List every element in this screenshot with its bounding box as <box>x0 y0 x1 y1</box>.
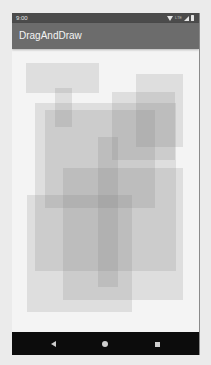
phone-screen: 9:00 LTE DragAndDraw <box>12 13 200 355</box>
lte-icon: LTE <box>175 15 182 21</box>
recents-icon <box>155 342 160 347</box>
wifi-icon <box>167 16 173 21</box>
drawing-canvas[interactable] <box>12 49 199 332</box>
navigation-bar <box>12 332 199 355</box>
back-icon <box>51 341 56 347</box>
page-background: 9:00 LTE DragAndDraw <box>0 0 211 365</box>
recents-button[interactable] <box>151 338 163 350</box>
signal-icon <box>184 16 189 21</box>
status-bar: 9:00 LTE <box>12 13 199 23</box>
app-bar: DragAndDraw <box>12 23 199 49</box>
app-title: DragAndDraw <box>19 30 82 42</box>
back-button[interactable] <box>47 338 59 350</box>
drawn-box <box>27 195 132 312</box>
battery-icon <box>191 15 194 21</box>
status-icons: LTE <box>167 15 194 21</box>
home-icon <box>102 341 108 347</box>
status-time: 9:00 <box>16 14 28 22</box>
home-button[interactable] <box>99 338 111 350</box>
